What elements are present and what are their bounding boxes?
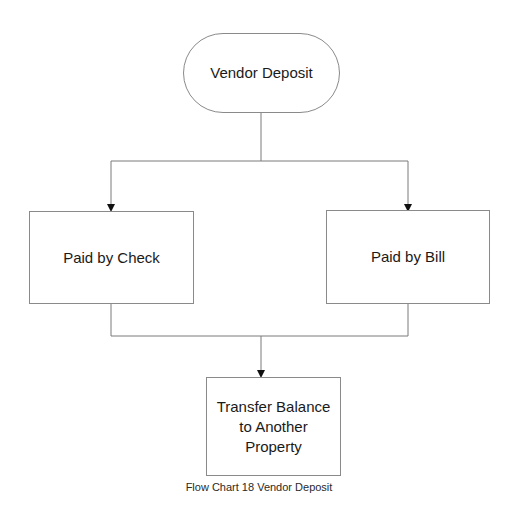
- node-label: Paid by Check: [63, 248, 160, 268]
- node-label: Vendor Deposit: [210, 63, 313, 83]
- figure-caption: Flow Chart 18 Vendor Deposit: [0, 481, 518, 493]
- node-label: Transfer Balance to Another Property: [215, 397, 332, 457]
- transfer-balance-node: Transfer Balance to Another Property: [206, 377, 341, 476]
- node-label: Paid by Bill: [371, 247, 445, 267]
- paid-by-bill-node: Paid by Bill: [326, 210, 490, 304]
- start-terminal-node: Vendor Deposit: [183, 33, 340, 113]
- paid-by-check-node: Paid by Check: [29, 211, 194, 304]
